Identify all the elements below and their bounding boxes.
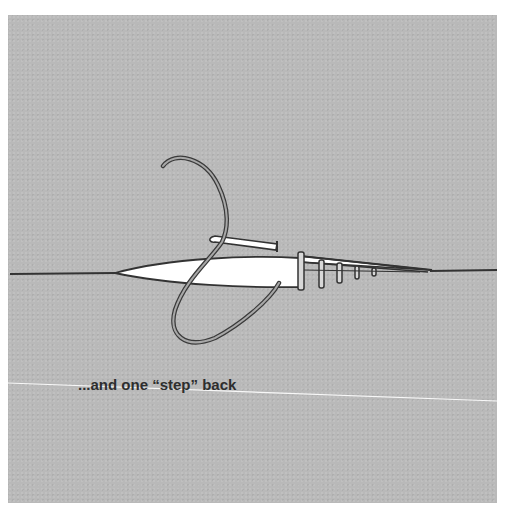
thread [163, 158, 279, 342]
caption-text: ...and one “step” back [78, 376, 236, 393]
stitch-diagram [0, 0, 510, 513]
stitch-ladder [298, 252, 432, 290]
